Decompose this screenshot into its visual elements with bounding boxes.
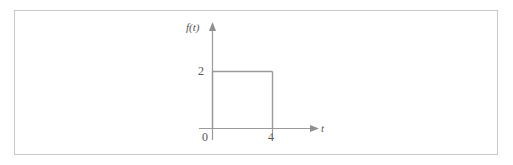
y-tick-label-2: 2: [198, 65, 204, 77]
step-function-plot: [0, 0, 513, 165]
y-axis-label: f(t): [186, 22, 199, 33]
x-axis-label: t: [321, 123, 324, 134]
y-axis-arrowhead: [209, 22, 216, 31]
origin-tick-label: 0: [202, 131, 208, 143]
x-tick-label-4: 4: [268, 131, 274, 143]
x-axis-arrowhead: [310, 125, 319, 132]
